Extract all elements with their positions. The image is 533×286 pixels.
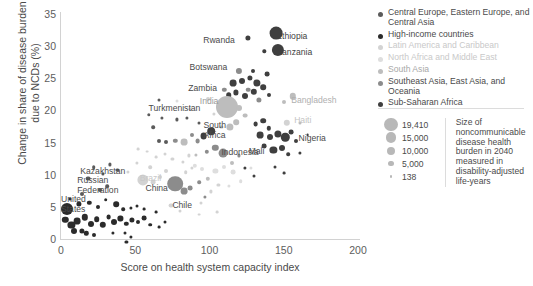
legend-item[interactable]: South Asia [378, 65, 530, 75]
data-point [171, 158, 174, 161]
data-point [94, 216, 100, 222]
data-point [199, 202, 202, 205]
data-point [256, 98, 261, 103]
data-point [181, 160, 184, 163]
data-point [289, 130, 294, 135]
data-point [195, 153, 198, 156]
legend-item[interactable]: Southeast Asia, East Asia, and Oceania [378, 77, 530, 97]
data-point [184, 170, 188, 174]
data-point [164, 140, 168, 144]
size-legend-item: 138 [380, 170, 445, 183]
data-point [92, 233, 96, 237]
data-point [125, 240, 128, 243]
data-point [158, 99, 161, 102]
legend-item[interactable]: Latin America and Caribbean [378, 41, 530, 51]
data-point [175, 118, 178, 121]
data-point [146, 150, 149, 153]
size-legend-item: 19,410 [380, 118, 445, 131]
size-legend-bubble-wrap [380, 175, 402, 178]
data-point [286, 152, 290, 156]
size-legend-value: 10,000 [402, 146, 428, 156]
data-point [260, 118, 266, 124]
data-point [247, 76, 252, 81]
legend-color-swatch [378, 34, 383, 39]
size-legend-bubble-wrap [380, 161, 402, 166]
legend-item[interactable]: High-income countries [378, 30, 530, 40]
scatter-plot-area [61, 14, 358, 239]
size-legend-value: 15,000 [402, 133, 428, 143]
x-tick-label: 200 [349, 244, 367, 256]
y-axis-label: Change in share of disease burdendue to … [16, 0, 42, 168]
size-legend-bubble [386, 132, 397, 143]
x-tick-label: 50 [129, 244, 141, 256]
x-tick-label: 0 [58, 244, 64, 256]
data-point [203, 195, 206, 198]
size-legend-description: Size of noncommunicable disease health b… [452, 118, 530, 187]
data-point [230, 79, 237, 86]
data-point [213, 168, 218, 173]
legend-divider [378, 108, 524, 109]
data-point [92, 165, 96, 169]
data-point [80, 192, 84, 196]
size-legend-bubble-wrap [380, 132, 402, 143]
size-legend-bubble [390, 175, 393, 178]
legend-label: South Asia [388, 65, 429, 75]
data-point [87, 201, 91, 205]
legend-item[interactable]: North Africa and Middle East [378, 53, 530, 63]
data-point [168, 203, 173, 208]
data-point [137, 174, 148, 185]
data-point [200, 133, 207, 140]
data-point [251, 89, 257, 95]
data-point [142, 216, 147, 221]
data-point [267, 93, 271, 97]
data-point [197, 181, 201, 185]
data-point [116, 168, 119, 171]
data-point [68, 198, 71, 201]
size-legend-bubble [384, 118, 398, 132]
data-point [282, 172, 285, 175]
data-point [227, 124, 234, 131]
data-point [270, 146, 277, 153]
data-point [260, 84, 266, 90]
data-point [263, 50, 266, 53]
legend-label: Latin America and Caribbean [388, 41, 499, 51]
data-point [198, 213, 201, 216]
data-point [192, 164, 196, 168]
data-point [187, 154, 190, 157]
data-point [129, 235, 132, 238]
legend-label: High-income countries [388, 30, 474, 40]
data-point [249, 166, 252, 169]
legend-item[interactable]: Sub-Saharan Africa [378, 98, 530, 108]
data-point [175, 100, 178, 103]
data-point [251, 69, 255, 73]
y-tick-label: 0 [10, 233, 56, 245]
data-point [84, 231, 88, 235]
data-point [195, 139, 200, 144]
data-point [143, 208, 146, 211]
data-point [257, 131, 264, 138]
data-point [158, 226, 161, 229]
data-point [267, 134, 273, 140]
data-point [243, 113, 248, 118]
data-point [101, 172, 104, 175]
data-point [88, 221, 94, 227]
size-legend-bubble [388, 161, 393, 166]
x-axis-line [60, 239, 360, 240]
data-point [113, 201, 119, 207]
data-point [85, 176, 90, 181]
data-point [164, 169, 168, 173]
data-point [233, 119, 239, 125]
legend-item[interactable]: Central Europe, Eastern Europe, and Cent… [378, 8, 530, 28]
size-legend-item: 5,000 [380, 157, 445, 170]
data-point [96, 205, 100, 209]
data-point [279, 145, 285, 151]
data-point [61, 203, 73, 215]
data-point [126, 171, 129, 174]
data-point [105, 184, 109, 188]
data-point [212, 145, 218, 151]
data-point [71, 228, 77, 234]
data-point [148, 223, 152, 227]
data-point [158, 175, 162, 179]
legend-color-swatch [378, 12, 383, 17]
data-point [124, 221, 128, 225]
